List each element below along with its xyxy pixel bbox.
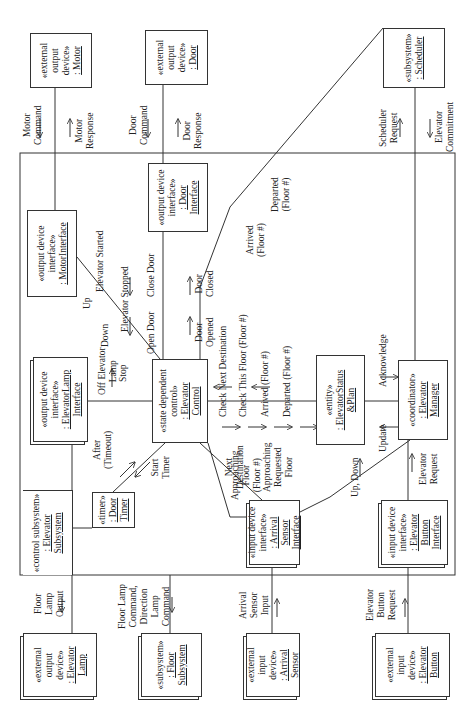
- msg-motor-command: MotorCommand: [22, 105, 44, 145]
- msg-arrived-status: Arrived (Floor #): [260, 351, 271, 417]
- object-name: Manager: [429, 383, 440, 417]
- stereotype-label: interface»: [47, 235, 58, 273]
- msg-arrived-floor: Arrived(Floor #): [245, 223, 267, 257]
- msg-elevator-button-request: ElevatorButtonRequest: [365, 589, 398, 621]
- object-name: : Elevator: [418, 646, 429, 683]
- msg-check-next-destination: Check Next Destination: [218, 326, 229, 417]
- msg-door-command: DoorCommand: [128, 105, 150, 145]
- object-floor-subsystem: «subsystem» : Floor Subsystem: [141, 633, 202, 697]
- stereotype-label: «external: [246, 647, 257, 682]
- msg-up-down: Up, Down: [350, 457, 361, 497]
- object-name: Sensor: [290, 652, 301, 678]
- object-name: : Elevator: [66, 646, 77, 683]
- msg-departed-floor: Departed(Floor #): [270, 177, 292, 212]
- object-elevator-control: «state dependent control» : Elevator Con…: [152, 359, 208, 443]
- stereotype-label: «entity»: [324, 384, 335, 415]
- stereotype-label: «subsystem»: [155, 640, 166, 689]
- object-name: : Door: [188, 45, 199, 70]
- object-name: : Door: [108, 498, 119, 523]
- stereotype-label: «timer»: [97, 495, 108, 525]
- object-name: : Arrival: [269, 517, 280, 549]
- object-name: : Motor: [72, 46, 83, 75]
- stereotype-label: «external: [155, 40, 166, 75]
- stereotype-label: output: [166, 45, 177, 69]
- object-name: Interface: [291, 516, 302, 550]
- stereotype-label: input: [257, 655, 268, 675]
- msg-motor-response: MotorResponse: [74, 113, 96, 149]
- msg-elevator-request: ElevatorRequest: [418, 453, 440, 485]
- msg-acknowledge: Acknowledge: [378, 334, 389, 387]
- stereotype-label: «control subsystem»: [31, 494, 42, 572]
- object-name: Button: [429, 652, 440, 678]
- object-scheduler: «subsystem» : Scheduler: [383, 28, 445, 88]
- object-name: : ElevatorStatus: [335, 370, 346, 430]
- object-name: Interface: [189, 181, 200, 215]
- object-name: : Door: [178, 185, 189, 210]
- stereotype-label: output: [50, 48, 61, 72]
- stereotype-label: «input device: [387, 507, 398, 558]
- msg-up: Up: [82, 297, 93, 309]
- msg-approaching-requested-floor: ApproachingRequestedFloor: [262, 442, 295, 492]
- stereotype-label: «state dependent: [158, 369, 169, 433]
- stereotype-label: device»: [268, 650, 279, 680]
- stereotype-label: control»: [169, 385, 180, 417]
- object-name: : Arrival: [279, 649, 290, 681]
- object-name: Button: [420, 520, 431, 546]
- object-elevator-lamp-interface: «output device interface» : ElevatorLamp…: [33, 357, 88, 442]
- msg-open-door: Open Door: [146, 312, 157, 354]
- msg-off-elevator-lamp: Off ElevatorLamp: [97, 347, 119, 395]
- object-name: : MotorInterface: [58, 222, 69, 285]
- object-elevator-status-plan: «entity» : ElevatorStatus &Plan: [316, 355, 365, 445]
- stereotype-label: «subsystem»: [403, 33, 414, 82]
- stereotype-label: device»: [177, 43, 188, 73]
- object-name: Interface: [72, 383, 83, 417]
- object-name: : Floor: [166, 652, 177, 678]
- object-name: &Plan: [346, 388, 357, 412]
- object-name: : Elevator: [180, 382, 191, 419]
- object-name: Lamp: [77, 654, 88, 676]
- object-elevator-lamp: «external output device» : Elevator Lamp: [23, 633, 97, 697]
- object-door-interface: «output device interface» : Door Interfa…: [148, 163, 208, 232]
- object-arrival-sensor: «external input device» : Arrival Sensor: [246, 633, 300, 697]
- msg-departed-status: Departed (Floor #): [282, 346, 293, 417]
- object-elevator-button: «external input device» : Elevator Butto…: [375, 633, 450, 697]
- object-elevator-button-interface: «input device interface» : Elevator Butt…: [381, 500, 448, 565]
- stereotype-label: input: [396, 655, 407, 675]
- stereotype-label: device»: [407, 650, 418, 680]
- msg-close-door: Close Door: [146, 253, 157, 297]
- stereotype-label: «output device: [156, 169, 167, 225]
- stereotype-label: «output device: [36, 225, 47, 281]
- stereotype-label: «output device: [39, 371, 50, 427]
- stereotype-label: interface»: [167, 179, 178, 217]
- object-name: Subsystem: [53, 512, 64, 553]
- object-name: Control: [191, 386, 202, 415]
- object-name: Sensor: [280, 520, 291, 546]
- stereotype-label: output: [44, 653, 55, 677]
- msg-arrival-sensor-input: ArrivalSensorInput: [238, 592, 271, 619]
- stereotype-label: interface»: [258, 514, 269, 552]
- msg-start-timer: StartTimer: [150, 456, 172, 479]
- object-motor: «external output device» : Motor: [30, 33, 92, 88]
- msg-down: Down: [100, 324, 111, 347]
- stereotype-label: «coordinator»: [407, 373, 418, 426]
- object-arrival-sensor-interface: «input device interface» : Arrival Senso…: [249, 500, 300, 565]
- msg-after-timeout: After(Timeout): [92, 431, 114, 469]
- stereotype-label: «external: [39, 43, 50, 78]
- object-name: : Elevator: [42, 514, 53, 551]
- stereotype-label: «external: [385, 647, 396, 682]
- msg-elevator-stopped: Elevator Stopped: [120, 266, 131, 332]
- msg-elevator-commitment: ElevatorCommitment: [434, 102, 456, 152]
- stereotype-label: «input device: [247, 507, 258, 558]
- msg-elevator-started: Elevator Started: [95, 231, 106, 292]
- stereotype-label: device»: [61, 46, 72, 76]
- object-door: «external output device» : Door: [145, 30, 208, 85]
- msg-floor-lamp-command: Floor LampCommand,DirectionLampCommand: [117, 584, 172, 629]
- object-name: Subsystem: [177, 644, 188, 685]
- object-motor-interface: «output device interface» : MotorInterfa…: [27, 210, 77, 297]
- msg-check-this-floor: Check This Floor (Floor #): [238, 314, 249, 417]
- stereotype-label: interface»: [398, 514, 409, 552]
- msg-stop: Stop: [118, 365, 129, 382]
- msg-door-closed: DoorClosed: [194, 271, 216, 297]
- object-elevator-manager: «coordinator» : Elevator Manager: [398, 360, 448, 440]
- subsystem-label-box: «control subsystem» : Elevator Subsystem: [23, 490, 73, 575]
